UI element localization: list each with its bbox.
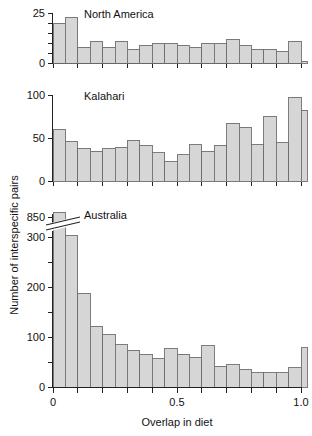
bar bbox=[239, 127, 251, 181]
y-tick-label-kal-100: 100 bbox=[27, 89, 45, 101]
panel-title-north-america: North America bbox=[84, 8, 155, 20]
bar bbox=[65, 236, 77, 388]
bar bbox=[140, 45, 152, 63]
bar bbox=[202, 151, 214, 181]
bar bbox=[127, 49, 139, 63]
y-tick-label-aus-0: 0 bbox=[39, 381, 45, 393]
bar bbox=[177, 354, 189, 387]
bar bbox=[90, 151, 102, 181]
x-axis-title: Overlap in diet bbox=[142, 416, 213, 428]
bar bbox=[301, 110, 307, 181]
bar bbox=[103, 47, 115, 63]
y-tick-label-na-0: 0 bbox=[39, 57, 45, 69]
y-tick-label-kal-50: 50 bbox=[33, 132, 45, 144]
bar bbox=[202, 346, 214, 388]
bar bbox=[152, 43, 164, 63]
bar bbox=[289, 41, 301, 63]
bar bbox=[103, 149, 115, 182]
bar bbox=[251, 49, 263, 63]
bar bbox=[214, 145, 226, 181]
bar bbox=[276, 143, 288, 182]
bar bbox=[239, 369, 251, 387]
bar bbox=[251, 145, 263, 182]
bar bbox=[264, 116, 276, 181]
bar bbox=[177, 155, 189, 182]
bar bbox=[152, 153, 164, 182]
bar bbox=[264, 49, 276, 63]
x-tick-label-1-0: 1.0 bbox=[293, 396, 308, 408]
bar bbox=[103, 335, 115, 388]
y-tick-label-aus-850: 850 bbox=[27, 211, 45, 223]
bar bbox=[90, 41, 102, 63]
y-tick-label-aus-300: 300 bbox=[27, 231, 45, 243]
bar bbox=[189, 47, 201, 63]
bar bbox=[165, 349, 177, 388]
bar bbox=[65, 17, 77, 63]
bar bbox=[276, 51, 288, 63]
y-tick-label-kal-0: 0 bbox=[39, 175, 45, 187]
bar bbox=[152, 359, 164, 388]
panel-kalahari: Kalahari 100 50 0 bbox=[27, 89, 307, 187]
bar bbox=[65, 142, 77, 182]
bar bbox=[289, 368, 301, 388]
bar bbox=[127, 350, 139, 387]
bar bbox=[214, 366, 226, 387]
bar bbox=[78, 293, 90, 387]
bar bbox=[289, 97, 301, 181]
x-tick-label-0: 0 bbox=[50, 396, 56, 408]
bars-kalahari bbox=[53, 97, 307, 181]
bar bbox=[189, 357, 201, 387]
x-ticks-north-america bbox=[53, 64, 301, 69]
y-axis-title: Number of interspecific pairs bbox=[8, 175, 20, 315]
bar bbox=[140, 354, 152, 387]
bar bbox=[227, 123, 239, 182]
histogram-figure: Number of interspecific pairs North Amer… bbox=[0, 0, 312, 436]
panel-title-australia: Australia bbox=[84, 209, 128, 221]
bar bbox=[78, 47, 90, 63]
bar bbox=[115, 345, 127, 388]
bar bbox=[165, 43, 177, 63]
bars-north-america bbox=[53, 17, 307, 63]
bar bbox=[53, 129, 65, 181]
bar bbox=[165, 162, 177, 182]
bar bbox=[264, 373, 276, 388]
panel-title-kalahari: Kalahari bbox=[84, 90, 124, 102]
bar bbox=[53, 23, 65, 63]
panel-north-america: North America 25 0 bbox=[33, 7, 307, 69]
bar bbox=[251, 373, 263, 388]
bar bbox=[189, 145, 201, 182]
bar bbox=[115, 147, 127, 181]
x-ticks-kalahari bbox=[53, 182, 301, 187]
bar bbox=[177, 45, 189, 63]
bar bbox=[227, 39, 239, 63]
bar bbox=[214, 43, 226, 63]
y-tick-label-na-25: 25 bbox=[33, 7, 45, 19]
bars-australia bbox=[53, 212, 307, 387]
bar bbox=[276, 373, 288, 388]
bar bbox=[227, 365, 239, 388]
panel-australia: Australia 850 300 200 100 0 bbox=[27, 209, 309, 428]
x-tick-label-0-5: 0.5 bbox=[169, 396, 184, 408]
bar bbox=[140, 145, 152, 181]
y-tick-label-aus-100: 100 bbox=[27, 331, 45, 343]
x-ticks-australia bbox=[53, 388, 301, 394]
bar bbox=[53, 212, 65, 387]
bar bbox=[78, 148, 90, 182]
bar bbox=[127, 140, 139, 181]
bar bbox=[301, 348, 307, 388]
bar bbox=[301, 61, 307, 63]
y-tick-label-aus-200: 200 bbox=[27, 281, 45, 293]
bar bbox=[115, 41, 127, 63]
bar bbox=[90, 326, 102, 387]
bar bbox=[239, 45, 251, 63]
figure-container: Number of interspecific pairs North Amer… bbox=[0, 0, 312, 436]
bar bbox=[202, 43, 214, 63]
